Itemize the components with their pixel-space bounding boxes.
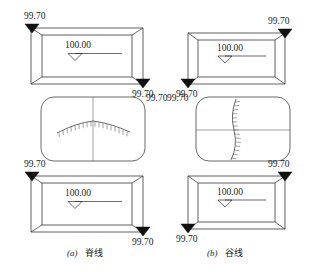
benchmark-value-top-left: 99.70 <box>24 159 46 169</box>
upper-block-water-level-value: 100.00 <box>65 40 91 50</box>
panel-b-caption: (b) 谷线 <box>207 247 243 258</box>
plan-benchmark-value-right: 99.70 <box>146 93 168 103</box>
benchmark-value-top-right: 99.70 <box>268 159 290 169</box>
panel-a-plan-view: 99.70 <box>41 93 168 161</box>
valley-plan-box <box>196 97 290 161</box>
panel-b-plan-benchmark-left: 99.70 <box>167 93 189 103</box>
panel-a-lower-block: 100.00 99.70 99.70 <box>24 159 154 247</box>
lower-block-water-level-value: 100.00 <box>65 188 91 198</box>
caption-a-label: 脊线 <box>85 247 103 258</box>
caption-a-index: (a) <box>67 248 78 258</box>
panel-a-upper-block: 100.00 99.70 99.70 <box>24 11 154 99</box>
upper-block-water-level-value: 100.00 <box>217 43 243 53</box>
figure-root: 100.00 99.70 99.70 <box>0 0 312 272</box>
topography-figure: 100.00 99.70 99.70 <box>0 0 312 272</box>
benchmark-value-top-right: 99.70 <box>268 16 290 26</box>
plan-benchmark-value-left: 99.70 <box>167 93 189 103</box>
panel-b-upper-block: 100.00 99.70 99.70 <box>176 16 292 99</box>
panel-a-plan-benchmark-right: 99.70 <box>146 93 168 103</box>
panel-b-lower-block: 100.00 99.70 99.70 <box>176 159 292 244</box>
benchmark-value-bottom-left: 99.70 <box>176 234 198 244</box>
panel-a-caption: (a) 脊线 <box>67 247 103 258</box>
benchmark-value-bottom-right: 99.70 <box>132 237 154 247</box>
caption-b-index: (b) <box>207 248 218 258</box>
lower-block-water-level-value: 100.00 <box>217 187 243 197</box>
caption-b-label: 谷线 <box>225 247 243 258</box>
benchmark-value-top-left: 99.70 <box>24 11 46 21</box>
panel-b-plan-view: 99.70 <box>167 93 290 161</box>
